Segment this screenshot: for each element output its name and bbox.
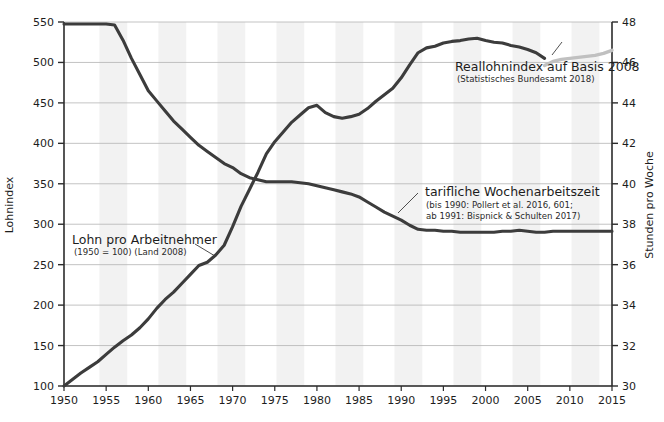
tick-label-right: 44 (622, 97, 636, 110)
tick-label-left: 450 (33, 97, 54, 110)
tick-label-bottom: 1950 (50, 394, 78, 407)
tick-label-right: 42 (622, 137, 636, 150)
tick-label-right: 30 (622, 380, 636, 393)
tick-label-bottom: 1955 (92, 394, 120, 407)
tick-label-bottom: 1960 (134, 394, 162, 407)
tick-label-left: 250 (33, 259, 54, 272)
shaded-band (276, 22, 304, 386)
tick-label-left: 350 (33, 178, 54, 191)
tick-label-left: 300 (33, 218, 54, 231)
axis-title-right: Stunden pro Woche (643, 151, 656, 259)
shaded-band (394, 22, 422, 386)
axis-title-left: Lohnindex (3, 176, 16, 233)
tick-label-bottom: 1990 (387, 394, 415, 407)
annotation-sub-hours-2: ab 1991: Bispnick & Schulten 2017) (426, 211, 580, 221)
annotation-sub-wage: (1950 = 100) (Land 2008) (74, 247, 187, 257)
tick-label-right: 38 (622, 218, 636, 231)
shaded-band (99, 22, 127, 386)
annotation-title-hours: tarifliche Wochenarbeitszeit (425, 184, 600, 199)
tick-label-bottom: 2000 (472, 394, 500, 407)
tick-label-right: 36 (622, 259, 636, 272)
tick-label-right: 34 (622, 299, 636, 312)
tick-label-bottom: 1975 (261, 394, 289, 407)
right-axis-title-text: Stunden pro Woche (643, 151, 656, 259)
annotation-sub-real: (Statistisches Bundesamt 2018) (457, 74, 595, 84)
tick-label-bottom: 1965 (176, 394, 204, 407)
tick-label-right: 40 (622, 178, 636, 191)
tick-label-left: 200 (33, 299, 54, 312)
line-chart: 1001502002503003504004505005503032343638… (0, 0, 664, 422)
tick-label-bottom: 2005 (514, 394, 542, 407)
chart-container: 1001502002503003504004505005503032343638… (0, 0, 664, 422)
tick-label-right: 48 (622, 16, 636, 29)
tick-label-bottom: 2010 (556, 394, 584, 407)
annotation-title-real: Reallohnindex auf Basis 2008 (455, 59, 640, 74)
tick-label-left: 500 (33, 56, 54, 69)
shaded-band (158, 22, 186, 386)
tick-label-bottom: 1995 (429, 394, 457, 407)
tick-label-left: 550 (33, 16, 54, 29)
tick-label-bottom: 1970 (219, 394, 247, 407)
annotation-title-wage: Lohn pro Arbeitnehmer (72, 232, 218, 247)
annotation-wochenarbeitszeit: tarifliche Wochenarbeitszeit (bis 1990: … (398, 184, 600, 221)
tick-label-right: 32 (622, 340, 636, 353)
shaded-band (335, 22, 363, 386)
left-axis-title-text: Lohnindex (3, 176, 16, 233)
tick-label-left: 100 (33, 380, 54, 393)
tick-label-bottom: 1985 (345, 394, 373, 407)
tick-label-bottom: 1980 (303, 394, 331, 407)
tick-label-left: 150 (33, 340, 54, 353)
annotation-sub-hours-1: (bis 1990: Pollert et al. 2016, 601; (426, 200, 573, 210)
tick-label-bottom: 2015 (598, 394, 626, 407)
tick-label-left: 400 (33, 137, 54, 150)
